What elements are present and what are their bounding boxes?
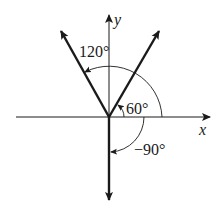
arc-60-degrees [118, 105, 124, 117]
y-axis-label: y [112, 11, 122, 29]
angle-label-120: 120° [79, 43, 109, 60]
angle-diagram: y x 120° 60° −90° [0, 0, 221, 205]
x-axis-label: x [198, 121, 206, 138]
angle-label-neg-90: −90° [134, 141, 165, 158]
angle-label-60: 60° [126, 100, 148, 117]
